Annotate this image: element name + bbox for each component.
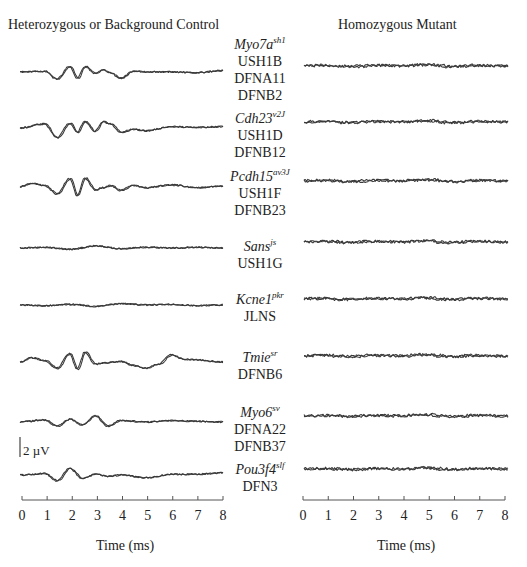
x-tick-label: 6 [448, 508, 462, 524]
x-tick-label: 3 [372, 508, 386, 524]
control-trace [20, 468, 223, 481]
x-tick-label: 5 [141, 508, 155, 524]
scale-bar-label: 2 µV [23, 443, 50, 459]
x-axis-label-left: Time (ms) [96, 538, 154, 554]
x-tick-label: 0 [296, 508, 310, 524]
control-trace [20, 416, 223, 427]
x-tick-label: 2 [347, 508, 361, 524]
x-tick-label: 3 [90, 508, 104, 524]
x-tick-label: 5 [422, 508, 436, 524]
control-trace [20, 66, 223, 79]
x-tick-label: 1 [40, 508, 54, 524]
x-tick-label: 7 [473, 508, 487, 524]
x-tick-label: 0 [15, 508, 29, 524]
x-tick-label: 2 [65, 508, 79, 524]
x-axes [22, 496, 505, 500]
x-tick-label: 4 [397, 508, 411, 524]
control-trace [20, 352, 223, 368]
control-trace [20, 178, 223, 196]
x-axis-label-right: Time (ms) [377, 538, 435, 554]
x-tick-label: 8 [498, 508, 512, 524]
control-trace [20, 121, 223, 138]
x-tick-label: 7 [191, 508, 205, 524]
x-tick-label: 1 [321, 508, 335, 524]
x-tick-label: 8 [216, 508, 230, 524]
x-tick-label: 4 [116, 508, 130, 524]
x-tick-label: 6 [166, 508, 180, 524]
abr-traces [0, 0, 527, 567]
